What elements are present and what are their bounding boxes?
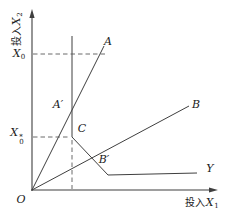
y-axis-arrow-icon: [29, 9, 34, 18]
isoquant-kinked-line: [72, 36, 197, 175]
point-label-a: A: [104, 36, 112, 47]
tick-x0-base: X: [13, 47, 21, 60]
point-label-b-prime: B′: [99, 154, 110, 165]
point-label-b: B: [192, 99, 200, 110]
tick-label-x0: X0: [13, 48, 25, 61]
diagram-canvas: 投入X2 投入X1 X0 X*0 A A′ B B′ C Y O: [0, 0, 229, 222]
point-label-c: C: [78, 123, 86, 134]
point-label-y: Y: [206, 163, 213, 174]
point-label-a-prime: A′: [53, 99, 63, 110]
y-axis-label-var: X: [10, 17, 23, 25]
tick-x0-sub: 0: [21, 53, 25, 61]
tick-label-x0-star: X*0: [10, 127, 23, 146]
ray-ob-line: [32, 106, 189, 190]
x-axis-label: 投入X1: [185, 197, 219, 210]
tick-x0star-sub: 0: [19, 140, 23, 145]
diagram-lines: [0, 0, 229, 222]
origin-label: O: [16, 194, 25, 205]
tick-x0star-base: X: [10, 126, 18, 139]
y-axis-label: 投入X2: [11, 12, 24, 46]
x-axis-arrow-icon: [209, 187, 218, 192]
x-axis-label-prefix: 投入: [185, 197, 206, 208]
y-axis-label-sub: 2: [16, 12, 24, 17]
x-axis-label-sub: 1: [214, 202, 219, 210]
y-axis-label-prefix: 投入: [11, 25, 22, 46]
ray-oa-line: [32, 46, 104, 190]
